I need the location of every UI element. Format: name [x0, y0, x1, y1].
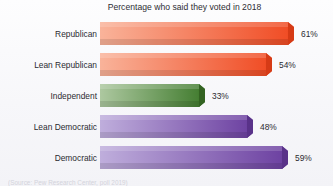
bar-face [100, 115, 253, 138]
bar-face [100, 146, 288, 169]
plot-area: Republican 61% Lean Republican 54% [0, 16, 333, 172]
bar-lean-republican[interactable] [100, 53, 272, 76]
bar-independent[interactable] [100, 84, 205, 107]
bar-face [100, 22, 294, 45]
bar-value-label: 48% [260, 122, 277, 132]
bar-row: Lean Republican 54% [0, 53, 333, 77]
bar-value-label: 54% [279, 60, 296, 70]
bar-chart: Percentage who said they voted in 2018 R… [0, 0, 333, 186]
bar-row: Democratic 59% [0, 146, 333, 170]
bar-cap [246, 115, 253, 138]
bar-value-label: 33% [212, 91, 229, 101]
bar-cap [198, 84, 205, 107]
category-label: Lean Republican [34, 60, 97, 70]
bar-democratic[interactable] [100, 146, 288, 169]
bar-face [100, 84, 205, 107]
bar-row: Independent 33% [0, 84, 333, 108]
category-label: Democratic [55, 153, 97, 163]
bar-face [100, 53, 272, 76]
bar-row: Republican 61% [0, 22, 333, 46]
bar-cap [281, 146, 288, 169]
bar-value-label: 59% [295, 153, 312, 163]
bar-cap [265, 53, 272, 76]
category-label: Republican [55, 29, 97, 39]
bar-value-label: 61% [301, 29, 318, 39]
bar-republican[interactable] [100, 22, 294, 45]
category-label: Independent [50, 91, 97, 101]
bar-row: Lean Democratic 48% [0, 115, 333, 139]
source-note: (Source: Pew Research Center, poll 2019) [8, 179, 128, 186]
bar-cap [287, 22, 294, 45]
category-label: Lean Democratic [34, 122, 97, 132]
chart-title: Percentage who said they voted in 2018 [0, 2, 333, 12]
bar-lean-democratic[interactable] [100, 115, 253, 138]
